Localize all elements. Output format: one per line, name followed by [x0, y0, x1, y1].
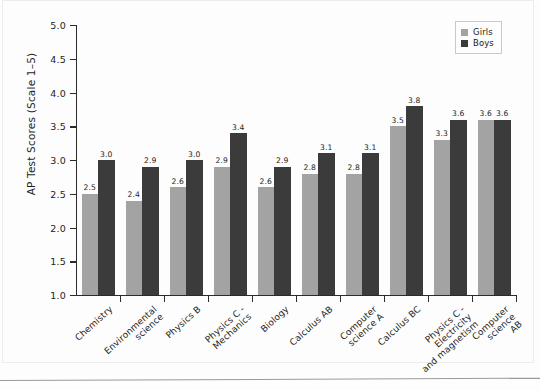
bar-group: 2.93.4	[214, 25, 247, 295]
bar-value-label: 3.1	[320, 143, 332, 152]
bar-value-label: 3.8	[408, 96, 420, 105]
bar-value-label: 2.9	[216, 156, 228, 165]
x-axis-tick-mark	[516, 296, 517, 302]
legend-swatch-girls-icon	[461, 29, 468, 36]
bar-value-label: 3.6	[480, 109, 492, 118]
bar-value-label: 2.8	[348, 163, 360, 172]
y-axis-tick-label: 3.5	[30, 121, 66, 132]
bar-girls[interactable]	[126, 201, 143, 296]
bar-boys[interactable]	[450, 120, 467, 296]
bar-girls[interactable]	[478, 120, 495, 296]
bar-group: 2.53.0	[82, 25, 115, 295]
x-axis-category-label: Chemistry	[73, 304, 115, 343]
bar-boys[interactable]	[142, 167, 159, 295]
bar-girls[interactable]	[170, 187, 187, 295]
legend-label-girls: Girls	[473, 27, 493, 37]
bar-value-label: 2.6	[260, 177, 272, 186]
bar-group: 3.33.6	[434, 25, 467, 295]
bar-group: 3.63.6	[478, 25, 511, 295]
x-axis-category-label: Physics B	[164, 304, 203, 340]
x-axis-tick-mark	[208, 296, 209, 302]
bar-value-label: 2.6	[172, 177, 184, 186]
x-axis-category-label: Computer science AB	[470, 304, 524, 357]
bar-value-label: 3.6	[496, 109, 508, 118]
bar-value-label: 3.5	[392, 116, 404, 125]
x-axis-tick-mark	[120, 296, 121, 302]
bar-value-label: 2.4	[128, 190, 140, 199]
chart-legend: Girls Boys	[455, 21, 502, 54]
bar-girls[interactable]	[434, 140, 451, 295]
x-axis-tick-mark	[296, 296, 297, 302]
bar-girls[interactable]	[390, 126, 407, 295]
bar-girls[interactable]	[302, 174, 319, 296]
bar-boys[interactable]	[274, 167, 291, 295]
y-axis-tick-mark	[70, 194, 76, 195]
y-axis-tick-label: 3.0	[30, 155, 66, 166]
x-axis-tick-mark	[384, 296, 385, 302]
y-axis-tick-mark	[70, 261, 76, 262]
bar-value-label: 2.9	[144, 156, 156, 165]
bar-girls[interactable]	[346, 174, 363, 296]
y-axis-tick-mark	[70, 295, 76, 296]
y-axis-tick-labels: 5.04.54.03.53.02.52.01.51.0	[24, 0, 66, 390]
x-axis-tick-mark	[252, 296, 253, 302]
y-axis-tick-mark	[70, 25, 76, 26]
bar-boys[interactable]	[98, 160, 115, 295]
bar-value-label: 3.6	[452, 109, 464, 118]
bar-girls[interactable]	[82, 194, 99, 295]
bar-value-label: 3.4	[232, 123, 244, 132]
y-axis-tick-mark	[70, 126, 76, 127]
legend-item-girls: Girls	[461, 27, 494, 37]
x-axis-tick-mark	[340, 296, 341, 302]
x-axis-category-label: Biology	[258, 304, 290, 334]
bar-girls[interactable]	[258, 187, 275, 295]
legend-swatch-boys-icon	[461, 40, 468, 47]
y-axis-tick-mark	[70, 160, 76, 161]
bar-value-label: 2.9	[276, 156, 288, 165]
bar-boys[interactable]	[494, 120, 511, 296]
y-axis-tick-mark	[70, 228, 76, 229]
bar-value-label: 3.0	[188, 150, 200, 159]
y-axis-tick-label: 4.0	[30, 87, 66, 98]
chart-page: AP Test Scores (Scale 1–5) 5.04.54.03.53…	[0, 0, 540, 390]
x-axis-tick-mark	[164, 296, 165, 302]
legend-item-boys: Boys	[461, 38, 494, 48]
legend-label-boys: Boys	[473, 38, 494, 48]
y-axis-tick-label: 2.5	[30, 188, 66, 199]
y-axis-tick-mark	[70, 93, 76, 94]
bar-group: 3.53.8	[390, 25, 423, 295]
bar-group: 2.62.9	[258, 25, 291, 295]
bar-boys[interactable]	[362, 153, 379, 295]
bar-group: 2.83.1	[302, 25, 335, 295]
y-axis-tick-label: 5.0	[30, 20, 66, 31]
x-axis-tick-mark	[428, 296, 429, 302]
bar-boys[interactable]	[318, 153, 335, 295]
bar-value-label: 3.1	[364, 143, 376, 152]
bar-value-label: 2.5	[84, 183, 96, 192]
bar-boys[interactable]	[186, 160, 203, 295]
bar-group: 2.42.9	[126, 25, 159, 295]
y-axis-tick-label: 1.5	[30, 256, 66, 267]
y-axis-tick-mark	[70, 59, 76, 60]
bar-boys[interactable]	[406, 106, 423, 295]
bar-group: 2.83.1	[346, 25, 379, 295]
y-axis-tick-label: 4.5	[30, 53, 66, 64]
bar-value-label: 2.8	[304, 163, 316, 172]
bar-boys[interactable]	[230, 133, 247, 295]
y-axis-tick-label: 2.0	[30, 222, 66, 233]
bar-value-label: 3.0	[100, 150, 112, 159]
x-axis-category-label: Physics C - Mechanics	[203, 304, 253, 352]
y-axis-tick-label: 1.0	[30, 290, 66, 301]
bar-girls[interactable]	[214, 167, 231, 295]
x-axis-category-label: Calculus AB	[287, 304, 334, 348]
bar-group: 2.63.0	[170, 25, 203, 295]
x-axis-tick-mark	[472, 296, 473, 302]
x-axis-category-label: Calculus BC	[375, 304, 422, 348]
bar-value-label: 3.3	[436, 129, 448, 138]
page-bottom-rule	[0, 378, 540, 381]
plot-area: 2.53.02.42.92.63.02.93.42.62.92.83.12.83…	[76, 25, 516, 295]
